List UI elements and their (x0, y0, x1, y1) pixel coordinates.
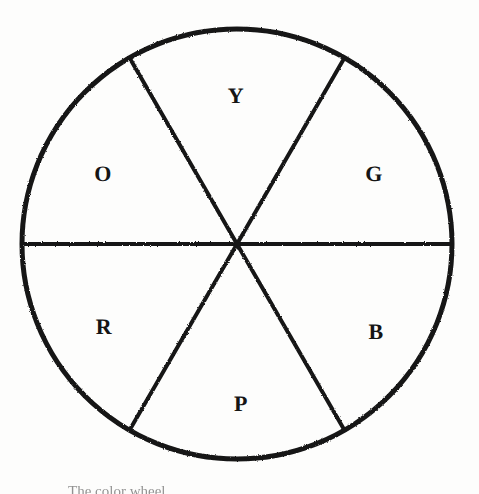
color-wheel-graphic (0, 0, 479, 494)
sector-label-blue: B (368, 321, 383, 343)
sector-label-yellow: Y (228, 85, 244, 107)
color-wheel-figure: Y O G R B P The color wheel. (0, 0, 479, 494)
figure-caption: The color wheel. (68, 483, 408, 494)
sector-label-orange: O (94, 163, 112, 185)
sector-label-purple: P (234, 393, 248, 415)
sector-label-green: G (365, 163, 383, 185)
sector-label-red: R (96, 316, 112, 338)
